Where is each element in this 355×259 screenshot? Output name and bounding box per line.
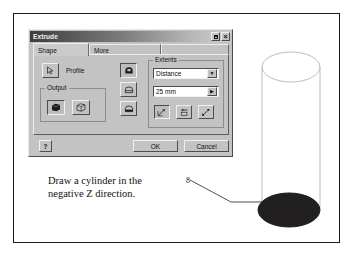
dialog-titlebar[interactable]: Extrude ×	[30, 31, 231, 42]
tab-shape-label: Shape	[38, 47, 57, 54]
arrow-up-right-icon	[157, 108, 167, 117]
tab-more-label: More	[94, 47, 109, 54]
chevron-down-icon[interactable]: ▼	[207, 69, 217, 78]
distance-options-icon[interactable]: ▶	[207, 87, 217, 96]
tab-shape[interactable]: Shape	[33, 43, 89, 56]
ok-label: OK	[151, 143, 160, 150]
output-surface-button[interactable]	[72, 100, 90, 115]
cylinder-viewport	[240, 25, 335, 230]
operation-join-button[interactable]	[120, 63, 137, 78]
caption-line-1: Draw a cylinder in the	[48, 174, 198, 187]
cylinder-graphic	[240, 25, 335, 230]
operation-intersect-button[interactable]	[120, 101, 137, 116]
extents-type-dropdown[interactable]: Distance ▼	[153, 68, 219, 79]
operation-cut-button[interactable]	[120, 82, 137, 97]
surface-cube-icon	[76, 103, 86, 112]
join-icon	[124, 66, 134, 75]
extents-distance-value: 25 mm	[154, 88, 207, 95]
close-button[interactable]: ×	[221, 32, 230, 41]
direction-symmetric-button[interactable]	[198, 105, 214, 119]
arrow-left-icon	[179, 108, 189, 117]
cylinder-top-ellipse	[262, 52, 320, 82]
close-icon: ×	[223, 33, 227, 40]
shape-tab-panel: Profile Output	[33, 54, 229, 135]
cylinder-bottom-face	[258, 193, 320, 227]
cancel-button[interactable]: Cancel	[184, 140, 229, 152]
help-button[interactable]: ?	[39, 140, 52, 152]
restore-icon	[214, 35, 218, 39]
output-solid-button[interactable]	[47, 100, 65, 115]
restore-button[interactable]	[211, 32, 220, 41]
caption-line-2: negative Z direction.	[48, 187, 198, 200]
ok-button[interactable]: OK	[133, 140, 178, 152]
extents-group-label: Extents	[153, 56, 179, 63]
help-icon: ?	[44, 143, 48, 150]
profile-select-button[interactable]	[42, 63, 59, 78]
cut-icon	[124, 85, 134, 94]
cursor-arrow-icon	[46, 66, 55, 75]
direction-positive-button[interactable]	[154, 105, 170, 119]
profile-label: Profile	[66, 67, 84, 74]
figure-caption: Draw a cylinder in the negative Z direct…	[48, 174, 198, 200]
solid-cube-icon	[51, 103, 61, 112]
extents-distance-field[interactable]: 25 mm ▶	[153, 86, 219, 97]
dialog-title: Extrude	[33, 33, 210, 40]
extents-type-value: Distance	[154, 70, 207, 77]
direction-negative-button[interactable]	[176, 105, 192, 119]
arrow-both-icon	[201, 108, 211, 117]
intersect-icon	[124, 104, 134, 113]
cancel-label: Cancel	[196, 143, 216, 150]
output-group-label: Output	[45, 84, 69, 91]
extrude-dialog[interactable]: Extrude × Shape More Profile Output	[28, 29, 233, 157]
